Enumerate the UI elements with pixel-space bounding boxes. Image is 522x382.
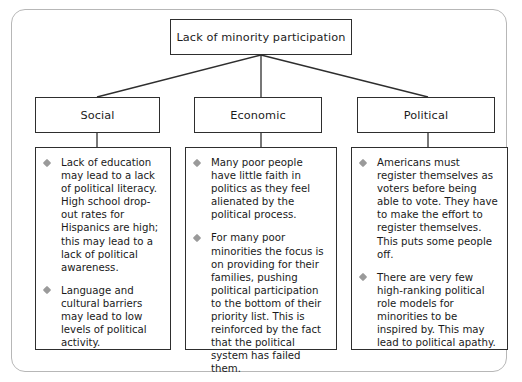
diamond-bullet-icon	[193, 234, 201, 242]
category-node-social: Social	[35, 97, 160, 133]
category-node-economic-label: Economic	[195, 98, 321, 132]
content-box-social: Lack of education may lead to a lack of …	[35, 147, 171, 350]
list-item: Lack of education may lead to a lack of …	[42, 156, 163, 274]
list-item: Language and cultural barriers may lead …	[42, 284, 163, 349]
title-node-label: Lack of minority participation	[171, 20, 351, 54]
diamond-bullet-icon	[359, 273, 367, 281]
list-item: Many poor people have little faith in po…	[192, 156, 329, 221]
diagram-canvas: Lack of minority participation Social Ec…	[0, 0, 522, 382]
list-item-text: There are very few high-ranking politica…	[377, 271, 500, 350]
list-item-text: Americans must register themselves as vo…	[377, 156, 500, 261]
category-node-economic: Economic	[194, 97, 322, 133]
diamond-bullet-icon	[359, 158, 367, 166]
category-node-political: Political	[357, 97, 495, 133]
category-node-social-label: Social	[36, 98, 159, 132]
bullet-list-economic: Many poor people have little faith in po…	[192, 156, 329, 376]
content-box-economic: Many poor people have little faith in po…	[185, 147, 337, 350]
content-box-political: Americans must register themselves as vo…	[351, 147, 508, 350]
list-item: There are very few high-ranking politica…	[358, 271, 500, 350]
diamond-bullet-icon	[43, 286, 51, 294]
list-item-text: For many poor minorities the focus is on…	[211, 231, 329, 375]
category-node-political-label: Political	[358, 98, 494, 132]
list-item-text: Lack of education may lead to a lack of …	[61, 156, 163, 274]
diamond-bullet-icon	[43, 158, 51, 166]
list-item-text: Many poor people have little faith in po…	[211, 156, 329, 221]
title-node: Lack of minority participation	[170, 19, 352, 55]
list-item: Americans must register themselves as vo…	[358, 156, 500, 261]
diamond-bullet-icon	[193, 158, 201, 166]
bullet-list-political: Americans must register themselves as vo…	[358, 156, 500, 349]
list-item-text: Language and cultural barriers may lead …	[61, 284, 163, 349]
list-item: For many poor minorities the focus is on…	[192, 231, 329, 375]
bullet-list-social: Lack of education may lead to a lack of …	[42, 156, 163, 349]
